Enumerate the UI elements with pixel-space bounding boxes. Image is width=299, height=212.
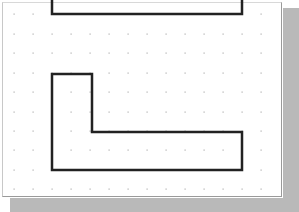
grid-dot	[147, 189, 148, 190]
grid-dot	[128, 53, 129, 54]
shapes-layer[interactable]	[52, 0, 242, 170]
grid-dot	[109, 73, 110, 74]
grid-dot	[33, 112, 34, 113]
grid-dot	[109, 112, 110, 113]
grid-dot	[52, 34, 53, 35]
grid-dot	[185, 53, 186, 54]
grid-dot	[166, 150, 167, 151]
grid-dot	[90, 189, 91, 190]
grid-dot	[147, 73, 148, 74]
grid-dot	[33, 131, 34, 132]
grid-dot	[185, 150, 186, 151]
grid-dot	[33, 34, 34, 35]
grid-dot	[33, 53, 34, 54]
grid-dot	[242, 34, 243, 35]
grid-dot	[261, 170, 262, 171]
grid-dot	[166, 73, 167, 74]
grid-dot	[71, 112, 72, 113]
grid-dot	[33, 14, 34, 15]
grid-dot	[128, 73, 129, 74]
grid-dot	[261, 112, 262, 113]
grid-dot	[261, 73, 262, 74]
grid-dot	[14, 189, 15, 190]
grid-dot	[90, 150, 91, 151]
grid-dot	[166, 112, 167, 113]
grid-dot	[261, 131, 262, 132]
grid-dot	[33, 73, 34, 74]
dot-grid	[14, 14, 262, 190]
grid-dot	[14, 150, 15, 151]
grid-dot	[33, 189, 34, 190]
grid-dot	[204, 112, 205, 113]
grid-dot	[204, 34, 205, 35]
grid-dot	[242, 73, 243, 74]
grid-dot	[14, 170, 15, 171]
grid-dot	[166, 92, 167, 93]
grid-dot	[71, 53, 72, 54]
grid-dot	[147, 150, 148, 151]
grid-dot	[185, 112, 186, 113]
grid-dot	[128, 92, 129, 93]
grid-dot	[147, 53, 148, 54]
grid-dot	[185, 189, 186, 190]
grid-dot	[90, 112, 91, 113]
grid-dot	[242, 189, 243, 190]
drawing-layer[interactable]	[0, 0, 299, 212]
grid-dot	[90, 53, 91, 54]
grid-dot	[109, 92, 110, 93]
grid-dot	[71, 189, 72, 190]
grid-dot	[14, 131, 15, 132]
grid-dot	[204, 189, 205, 190]
drawing-window	[0, 0, 299, 212]
grid-dot	[261, 189, 262, 190]
grid-dot	[185, 34, 186, 35]
grid-dot	[223, 73, 224, 74]
grid-dot	[261, 150, 262, 151]
grid-dot	[14, 73, 15, 74]
grid-dot	[90, 34, 91, 35]
grid-dot	[109, 34, 110, 35]
grid-dot	[71, 92, 72, 93]
grid-dot	[166, 34, 167, 35]
grid-dot	[71, 150, 72, 151]
grid-dot	[14, 92, 15, 93]
l-shape[interactable]	[52, 74, 242, 170]
grid-dot	[33, 92, 34, 93]
top-u-shape[interactable]	[52, 0, 242, 14]
grid-dot	[261, 34, 262, 35]
grid-dot	[71, 131, 72, 132]
grid-dot	[109, 189, 110, 190]
grid-dot	[242, 92, 243, 93]
grid-dot	[223, 34, 224, 35]
grid-dot	[242, 112, 243, 113]
grid-dot	[185, 92, 186, 93]
grid-dot	[147, 112, 148, 113]
grid-dot	[223, 150, 224, 151]
grid-dot	[166, 189, 167, 190]
grid-dot	[52, 53, 53, 54]
grid-dot	[223, 53, 224, 54]
grid-dot	[204, 73, 205, 74]
grid-dot	[204, 92, 205, 93]
grid-dot	[52, 189, 53, 190]
grid-dot	[261, 92, 262, 93]
grid-dot	[242, 53, 243, 54]
grid-dot	[147, 34, 148, 35]
grid-dot	[109, 53, 110, 54]
grid-dot	[223, 112, 224, 113]
grid-dot	[204, 150, 205, 151]
grid-dot	[128, 112, 129, 113]
grid-dot	[128, 34, 129, 35]
grid-dot	[14, 34, 15, 35]
grid-dot	[128, 189, 129, 190]
grid-dot	[223, 92, 224, 93]
grid-dot	[71, 34, 72, 35]
grid-dot	[33, 150, 34, 151]
grid-dot	[14, 14, 15, 15]
grid-dot	[14, 112, 15, 113]
grid-dot	[90, 131, 91, 132]
grid-dot	[223, 189, 224, 190]
grid-dot	[204, 53, 205, 54]
grid-dot	[147, 92, 148, 93]
grid-dot	[185, 73, 186, 74]
